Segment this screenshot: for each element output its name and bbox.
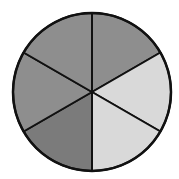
- fraction-circle: [0, 0, 179, 179]
- fraction-circle-diagram: [0, 0, 179, 179]
